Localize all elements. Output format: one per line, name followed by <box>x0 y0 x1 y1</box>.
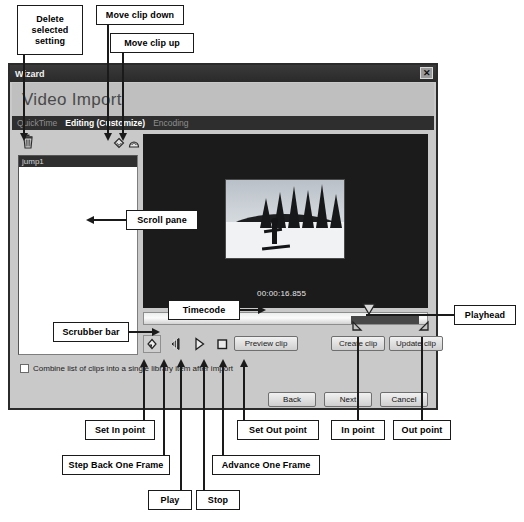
skier-body <box>272 224 277 244</box>
window-title: Wizard <box>15 69 44 79</box>
leader-arrow <box>119 133 127 141</box>
in-point-marker[interactable] <box>350 318 365 333</box>
annotation-scrubber-bar: Scrubber bar <box>53 322 129 342</box>
leader-arrow <box>140 359 148 367</box>
video-import-wizard-dialog: Wizard ✕ Video Import QuickTime Editing … <box>8 63 438 410</box>
annotation-delete-selected-setting: Delete selected setting <box>17 5 83 55</box>
annotation-playhead: Playhead <box>454 305 516 325</box>
leader-arrow <box>258 306 266 314</box>
leader-arrow <box>20 133 28 141</box>
annotation-timecode: Timecode <box>168 300 240 320</box>
back-button[interactable]: Back <box>268 392 316 407</box>
leader-line <box>240 309 259 311</box>
tree-icon <box>330 194 342 228</box>
leader-arrow <box>160 359 168 367</box>
set-in-point-button[interactable] <box>143 335 161 353</box>
play-button[interactable] <box>190 335 208 353</box>
update-clip-button[interactable]: Update clip <box>389 336 443 351</box>
leader-line <box>421 337 423 420</box>
leader-line <box>143 366 145 420</box>
annotation-move-clip-down: Move clip down <box>96 5 184 25</box>
leader-arrow <box>177 359 185 367</box>
tree-icon <box>288 186 300 228</box>
diamond-up-icon[interactable] <box>126 134 142 151</box>
leader-arrow <box>200 359 208 367</box>
out-point-marker[interactable] <box>416 318 431 333</box>
video-frame <box>225 179 345 259</box>
leader-line <box>366 314 454 316</box>
next-button[interactable]: Next <box>324 392 372 407</box>
tab-bar: QuickTime Editing (Customize) Encoding <box>12 116 434 130</box>
leader-arrow <box>240 359 248 367</box>
leader-line <box>203 366 205 490</box>
annotation-in-point: In point <box>331 420 385 440</box>
annotation-line: Delete <box>36 14 64 25</box>
banner: Video Import <box>12 83 434 116</box>
annotation-line: selected <box>32 25 69 36</box>
step-back-one-frame-button[interactable] <box>167 335 185 353</box>
leader-line <box>23 55 25 135</box>
leader-line <box>122 53 124 135</box>
annotation-stop: Stop <box>196 490 240 510</box>
annotation-advance-one-frame: Advance One Frame <box>212 455 320 475</box>
leader-arrow <box>152 328 160 336</box>
wizard-nav-buttons: Back Next Cancel <box>268 392 428 407</box>
tree-icon <box>316 184 328 228</box>
annotation-step-back-one-frame: Step Back One Frame <box>62 455 170 475</box>
leader-line <box>222 366 224 455</box>
leader-line <box>357 337 359 420</box>
annotation-line: setting <box>35 36 65 47</box>
combine-clips-checkbox[interactable] <box>20 364 29 373</box>
leader-line <box>243 366 245 420</box>
list-item[interactable]: jump1 <box>19 156 137 167</box>
leader-line <box>163 366 165 455</box>
timecode-readout: 00:00:16.855 <box>257 289 306 298</box>
tab-encoding[interactable]: Encoding <box>153 118 188 128</box>
annotation-set-out-point: Set Out point <box>237 420 319 440</box>
leader-line <box>93 219 126 221</box>
leader-arrow <box>86 216 94 224</box>
tree-icon <box>260 198 272 228</box>
leader-line <box>129 331 153 333</box>
annotation-out-point: Out point <box>393 420 451 440</box>
leader-arrow <box>104 133 112 141</box>
title-bar[interactable]: Wizard ✕ <box>10 65 436 82</box>
tree-icon <box>302 190 314 228</box>
close-icon[interactable]: ✕ <box>420 67 433 79</box>
clip-list-toolbar <box>20 132 146 154</box>
leader-line <box>107 25 109 135</box>
annotation-play: Play <box>148 490 192 510</box>
annotation-set-in-point: Set In point <box>85 420 155 440</box>
leader-line <box>180 366 182 490</box>
skier-head <box>271 218 278 225</box>
tab-editing-customize[interactable]: Editing (Customize) <box>65 118 145 128</box>
leader-arrow <box>219 359 227 367</box>
stop-button[interactable] <box>213 335 231 353</box>
annotation-scroll-pane: Scroll pane <box>126 210 198 230</box>
annotation-move-clip-up: Move clip up <box>110 33 194 53</box>
preview-clip-button[interactable]: Preview clip <box>234 336 298 351</box>
